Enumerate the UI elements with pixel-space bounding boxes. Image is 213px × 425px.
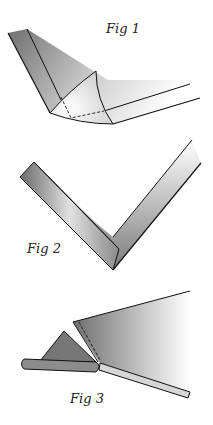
figure-3: Fig 3 [22,291,191,406]
figure-1: Fig 1 [8,21,200,124]
fig2-label: Fig 2 [26,241,61,256]
fig1-label: Fig 1 [105,21,140,36]
figure-2: Fig 2 [20,140,201,270]
diagram-canvas: Fig 1 Fig 2 Fig 3 [0,0,213,425]
fig3-label: Fig 3 [69,391,104,406]
